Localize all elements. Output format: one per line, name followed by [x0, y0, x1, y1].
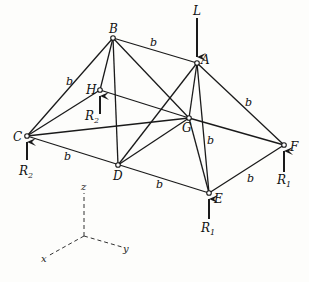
reaction-label-F: R1: [276, 173, 291, 189]
member-EF: [209, 145, 284, 193]
truss-svg: B A H C G D E F L R2 R2 R1 R1 b b b b b …: [0, 0, 309, 282]
length-label-BC: b: [66, 75, 73, 88]
x-axis-label: x: [41, 253, 47, 264]
node-label-E: E: [213, 192, 223, 206]
length-label-CD: b: [64, 150, 71, 163]
reaction-label-H: R2: [84, 109, 99, 125]
node-label-A: A: [200, 53, 210, 67]
node-A: [195, 61, 200, 66]
length-label-AF: b: [245, 96, 252, 109]
node-D: [116, 163, 121, 168]
node-label-F: F: [289, 140, 299, 154]
node-C: [25, 134, 30, 139]
node-G: [187, 116, 192, 121]
reaction-label-E: R1: [200, 221, 215, 237]
member-BD: [113, 38, 118, 165]
node-F: [282, 143, 287, 148]
x-axis: [48, 236, 84, 256]
truss-members: [27, 38, 284, 193]
node-label-B: B: [108, 22, 118, 36]
node-label-D: D: [112, 169, 123, 183]
member-AE: [197, 63, 209, 193]
coordinate-axes: [48, 193, 122, 256]
y-axis: [84, 236, 122, 247]
length-label-AE: b: [207, 134, 214, 147]
length-label-DE: b: [156, 178, 163, 191]
node-label-H: H: [85, 83, 97, 97]
node-label-C: C: [13, 130, 22, 144]
length-label-BA: b: [150, 36, 157, 49]
node-B: [111, 36, 116, 41]
length-label-EF: b: [247, 172, 254, 185]
node-H: [98, 88, 103, 93]
truss-diagram: B A H C G D E F L R2 R2 R1 R1 b b b b b …: [0, 0, 309, 282]
z-axis-label: z: [80, 181, 87, 192]
reaction-label-C: R2: [18, 164, 33, 180]
node-E: [207, 191, 212, 196]
node-label-G: G: [182, 121, 192, 135]
y-axis-label: y: [122, 243, 129, 254]
load-label-L: L: [192, 4, 201, 18]
